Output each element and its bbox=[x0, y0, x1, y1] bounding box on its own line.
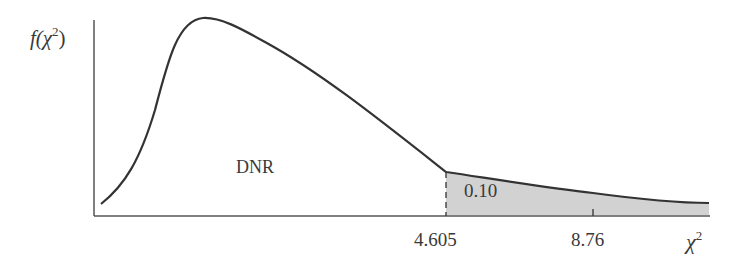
dnr-region-label: DNR bbox=[236, 157, 274, 178]
tick-label-critical: 4.605 bbox=[414, 229, 457, 251]
x-axis-label: χ2 bbox=[686, 228, 702, 255]
y-axis-label: f(χ2) bbox=[30, 24, 66, 51]
tick-label-8-76: 8.76 bbox=[571, 229, 604, 251]
chi-square-chart bbox=[0, 0, 747, 268]
tail-area-label: 0.10 bbox=[464, 180, 497, 202]
density-curve bbox=[101, 18, 709, 204]
